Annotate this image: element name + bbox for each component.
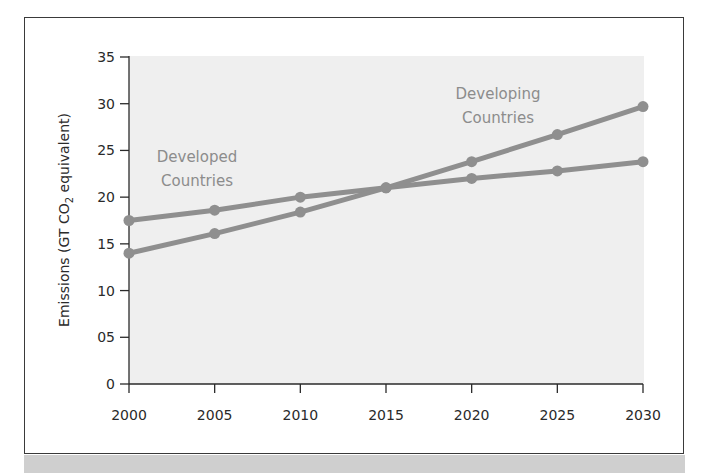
y-tick-label: 05: [97, 329, 115, 345]
data-point: [638, 101, 649, 112]
x-tick-label: 2010: [283, 407, 319, 423]
y-tick-label: 30: [97, 96, 115, 112]
y-tick-label: 20: [97, 189, 115, 205]
x-tick-label: 2020: [454, 407, 490, 423]
series-label: Countries: [462, 109, 534, 127]
data-point: [552, 129, 563, 140]
series-label: Developing: [456, 85, 541, 103]
data-point: [466, 173, 477, 184]
plot-area: [129, 56, 644, 384]
data-point: [466, 156, 477, 167]
x-tick-label: 2000: [111, 407, 147, 423]
data-point: [209, 205, 220, 216]
data-point: [638, 156, 649, 167]
y-axis-title: Emissions (GT CO2 equivalent): [56, 113, 75, 327]
y-tick-label: 15: [97, 236, 115, 252]
data-point: [552, 165, 563, 176]
x-tick-label: 2005: [197, 407, 233, 423]
data-point: [124, 215, 135, 226]
series-label: Countries: [161, 172, 233, 190]
y-tick-label: 25: [97, 142, 115, 158]
data-point: [381, 182, 392, 193]
x-tick-label: 2025: [540, 407, 576, 423]
data-point: [295, 192, 306, 203]
series-label: Developed: [157, 148, 238, 166]
y-tick-label: 35: [97, 49, 115, 65]
data-point: [124, 248, 135, 259]
y-tick-label: 0: [106, 376, 115, 392]
y-tick-label: 10: [97, 283, 115, 299]
x-tick-label: 2030: [625, 407, 661, 423]
x-tick-label: 2015: [368, 407, 404, 423]
data-point: [209, 228, 220, 239]
data-point: [295, 207, 306, 218]
line-chart: 0051015202530352000200520102015202020252…: [0, 0, 707, 473]
